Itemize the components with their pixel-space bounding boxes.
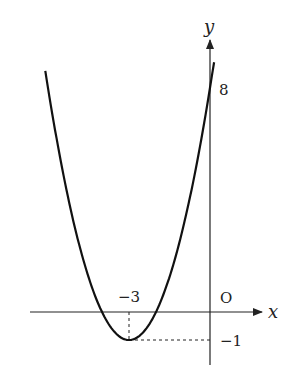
vertex-x-label: −3 (118, 288, 140, 306)
parabola-graph: y x O −3 −1 8 (0, 0, 297, 381)
x-axis-label: x (268, 301, 278, 322)
vertex-y-label: −1 (220, 332, 242, 350)
y-axis-label: y (203, 16, 215, 37)
y-intercept-label: 8 (219, 81, 229, 99)
origin-label: O (220, 289, 232, 307)
